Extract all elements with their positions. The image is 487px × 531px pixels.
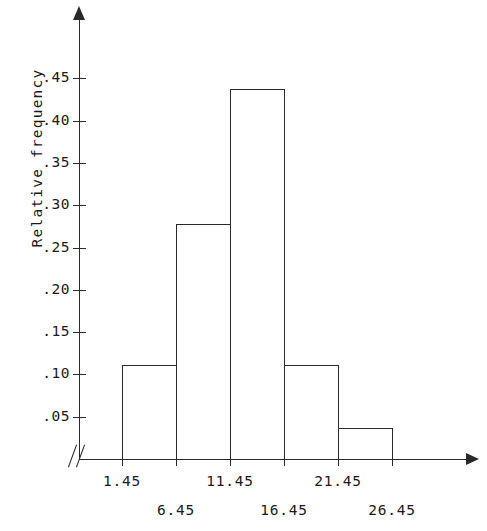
axis-break-slash-1 — [68, 445, 77, 468]
x-axis-tick-label: 1.45 — [82, 474, 162, 489]
y-axis-tick-label: .45 — [24, 70, 70, 85]
y-axis-tick — [73, 290, 86, 291]
histogram-bar — [284, 365, 339, 459]
x-axis-tick-label: 26.45 — [352, 503, 432, 518]
histogram-bar — [176, 224, 231, 459]
y-axis-tick — [73, 248, 86, 249]
y-axis-tick — [73, 417, 86, 418]
y-axis-tick-label: .35 — [24, 155, 70, 170]
y-axis-tick — [73, 332, 86, 333]
y-axis-tick — [73, 121, 86, 122]
axis-break-icon — [68, 444, 90, 468]
y-axis-tick-label-wrap: .05 — [14, 417, 70, 418]
y-axis-arrow-icon — [73, 6, 85, 20]
axis-break-slash-2 — [76, 445, 85, 468]
y-axis-tick-label-wrap: .30 — [14, 205, 70, 206]
y-axis-tick-label: .25 — [24, 240, 70, 255]
y-axis-tick-label-wrap: .25 — [14, 248, 70, 249]
x-axis-line — [79, 459, 473, 460]
y-axis-tick-label: .20 — [24, 282, 70, 297]
x-axis-arrow-icon — [466, 453, 479, 465]
y-axis-tick-label-wrap: .15 — [14, 332, 70, 333]
histogram-bar — [122, 365, 177, 459]
x-axis-tick-label: 16.45 — [244, 503, 324, 518]
y-axis-tick-label: .30 — [24, 197, 70, 212]
histogram-bar — [338, 428, 393, 459]
y-axis-tick-label-wrap: .45 — [14, 78, 70, 79]
y-axis-tick-label-wrap: .40 — [14, 121, 70, 122]
y-axis-tick — [73, 374, 86, 375]
y-axis-tick-label-wrap: .35 — [14, 163, 70, 164]
y-axis-line — [79, 16, 80, 460]
y-axis-tick-label: .05 — [24, 409, 70, 424]
y-axis-tick-label-wrap: .10 — [14, 374, 70, 375]
y-axis-tick — [73, 163, 86, 164]
x-axis-tick-label: 11.45 — [190, 474, 270, 489]
x-axis-tick-label: 21.45 — [298, 474, 378, 489]
y-axis-tick-label: .40 — [24, 113, 70, 128]
histogram-figure: Relative frequency .05.10.15.20.25.30.35… — [0, 0, 487, 531]
y-axis-tick — [73, 205, 86, 206]
histogram-bar — [230, 89, 285, 459]
y-axis-tick — [73, 78, 86, 79]
y-axis-tick-label-wrap: .20 — [14, 290, 70, 291]
x-axis-tick-label: 6.45 — [136, 503, 216, 518]
y-axis-tick-label: .15 — [24, 324, 70, 339]
y-axis-tick-label: .10 — [24, 366, 70, 381]
